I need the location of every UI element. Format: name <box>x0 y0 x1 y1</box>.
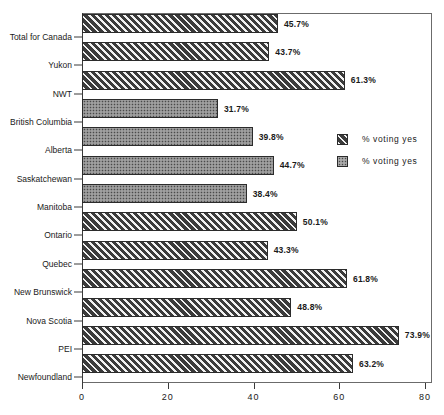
bar-value-label: 38.4% <box>253 189 278 199</box>
bar-value-label: 48.8% <box>297 302 322 312</box>
bar-value-label: 43.3% <box>274 245 299 255</box>
category-label-newfoundland: Newfoundland <box>18 372 72 382</box>
bar-value-label: 39.8% <box>259 132 284 142</box>
category-tick <box>74 150 82 151</box>
x-axis-tick <box>82 383 83 389</box>
legend-label: % voting yes <box>362 134 417 144</box>
bar-nova-scotia <box>82 298 291 317</box>
category-tick <box>74 263 82 264</box>
bar-value-label: 31.7% <box>224 104 249 114</box>
category-label-pei: PEI <box>58 344 72 354</box>
category-tick <box>74 292 82 293</box>
bar-british-columbia <box>82 99 218 118</box>
category-tick <box>74 65 82 66</box>
x-axis-tick <box>168 383 169 389</box>
bar-manitoba <box>82 184 247 203</box>
bar-ontario <box>82 212 297 231</box>
bar-chart: Total for CanadaYukonNWTBritish Columbia… <box>0 0 444 415</box>
bar-newfoundland <box>82 354 353 373</box>
bar-new-brunswick <box>82 269 347 288</box>
category-tick <box>74 178 82 179</box>
bar-alberta <box>82 127 253 146</box>
legend-label: % voting yes <box>362 156 417 166</box>
category-label-saskatchewan: Saskatchewan <box>17 174 72 184</box>
category-tick <box>74 207 82 208</box>
x-axis-tick-label: 40 <box>247 392 259 402</box>
category-label-ontario: Ontario <box>44 230 72 240</box>
legend-swatch-dots-icon <box>337 156 348 167</box>
legend-item-1: % voting yes <box>337 128 432 150</box>
bar-value-label: 61.3% <box>351 75 376 85</box>
bar-quebec <box>82 241 268 260</box>
x-axis-tick-label: 0 <box>79 392 85 402</box>
chart-legend: % voting yes% voting yes <box>337 128 432 172</box>
category-label-quebec: Quebec <box>42 259 72 269</box>
bar-total-for-canada <box>82 14 278 33</box>
bar-yukon <box>82 42 269 61</box>
category-tick <box>74 377 82 378</box>
category-tick <box>74 235 82 236</box>
category-label-alberta: Alberta <box>45 145 72 155</box>
category-tick <box>74 93 82 94</box>
category-label-british-columbia: British Columbia <box>10 117 72 127</box>
bar-pei <box>82 326 399 345</box>
category-label-total-for-canada: Total for Canada <box>10 32 72 42</box>
bars-area: 45.7%43.7%61.3%31.7%39.8%44.7%38.4%50.1%… <box>82 13 432 383</box>
category-label-nova-scotia: Nova Scotia <box>26 316 72 326</box>
x-axis-tick-label: 80 <box>419 392 431 402</box>
x-axis-tick-label: 20 <box>162 392 174 402</box>
category-tick <box>74 348 82 349</box>
category-axis-labels: Total for CanadaYukonNWTBritish Columbia… <box>0 0 80 415</box>
legend-item-2: % voting yes <box>337 150 432 172</box>
category-label-new-brunswick: New Brunswick <box>14 287 72 297</box>
category-tick <box>74 320 82 321</box>
bar-value-label: 45.7% <box>284 19 309 29</box>
category-label-nwt: NWT <box>53 89 72 99</box>
bar-value-label: 50.1% <box>303 217 328 227</box>
x-axis-tick <box>425 383 426 389</box>
category-tick <box>74 37 82 38</box>
bar-nwt <box>82 71 345 90</box>
x-axis-tick <box>339 383 340 389</box>
category-label-manitoba: Manitoba <box>37 202 72 212</box>
x-axis-tick <box>254 383 255 389</box>
category-tick <box>74 122 82 123</box>
bar-value-label: 43.7% <box>275 47 300 57</box>
bar-saskatchewan <box>82 156 274 175</box>
x-axis-tick-label: 60 <box>333 392 345 402</box>
bar-value-label: 44.7% <box>280 160 305 170</box>
bar-value-label: 73.9% <box>405 330 430 340</box>
legend-swatch-hatch-icon <box>337 134 348 145</box>
bar-value-label: 63.2% <box>359 359 384 369</box>
bar-value-label: 61.8% <box>353 274 378 284</box>
category-label-yukon: Yukon <box>48 60 72 70</box>
